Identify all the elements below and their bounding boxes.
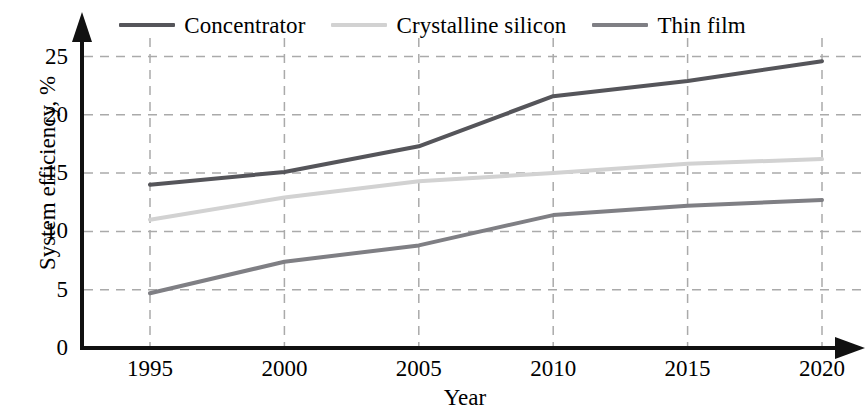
x-tick-label-2000: 2000 <box>239 357 329 380</box>
gridlines <box>84 38 862 346</box>
x-tick-label-1995: 1995 <box>105 357 195 380</box>
series-line-thin-film <box>150 200 822 293</box>
y-tick-label-25: 25 <box>22 45 68 68</box>
axis-lines <box>72 12 865 359</box>
plot-area <box>0 0 865 415</box>
series-line-crystalline-silicon <box>150 159 822 220</box>
x-tick-label-2010: 2010 <box>508 357 598 380</box>
series-line-concentrator <box>150 61 822 185</box>
series-lines <box>150 61 822 293</box>
x-axis-title: Year <box>385 385 545 411</box>
y-tick-label-10: 10 <box>22 219 68 242</box>
x-tick-label-2020: 2020 <box>777 357 865 380</box>
chart-container: Concentrator Crystalline silicon Thin fi… <box>0 0 865 415</box>
x-tick-label-2015: 2015 <box>643 357 733 380</box>
y-tick-label-0: 0 <box>22 336 68 359</box>
y-tick-label-20: 20 <box>22 103 68 126</box>
x-tick-label-2005: 2005 <box>374 357 464 380</box>
y-tick-label-5: 5 <box>22 278 68 301</box>
y-tick-label-15: 15 <box>22 161 68 184</box>
